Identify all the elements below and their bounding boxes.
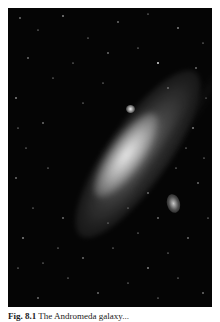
- figure-caption: Fig. 8.1 The Andromeda galaxy...: [8, 311, 212, 322]
- caption-label: Fig. 8.1: [8, 311, 36, 321]
- caption-text: The Andromeda galaxy...: [38, 311, 129, 321]
- satellite-galaxy-m32: [126, 105, 135, 113]
- galaxy-photograph: [8, 8, 212, 307]
